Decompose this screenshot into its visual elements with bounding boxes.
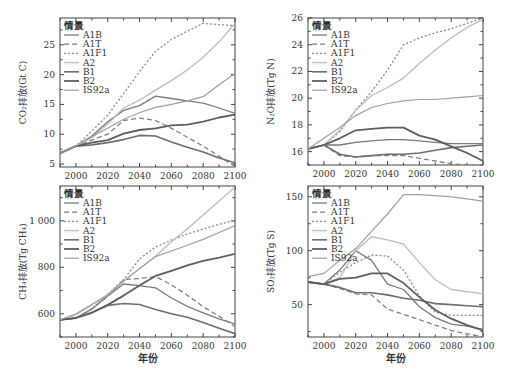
x-tick-label: 2080 bbox=[440, 169, 463, 179]
y-tick-label: 1 000 bbox=[29, 216, 55, 226]
x-tick-label: 2060 bbox=[160, 341, 183, 351]
y-tick-label: 16 bbox=[292, 147, 304, 157]
x-tick-label: 2020 bbox=[344, 341, 367, 351]
series-line-a1t bbox=[60, 118, 235, 166]
series-line-a1t bbox=[60, 277, 235, 327]
y-axis-label: CO₂排放(Gt C) bbox=[17, 61, 28, 124]
legend-label-is92a: IS92a bbox=[83, 253, 110, 263]
figure-canvas: 200020202040206020802100510152025CO₂排放(G… bbox=[0, 0, 507, 379]
y-tick-label: 26 bbox=[292, 13, 304, 23]
y-tick-label: 24 bbox=[292, 40, 304, 50]
x-tick-label: 2080 bbox=[440, 341, 463, 351]
legend: 情景A1BA1TA1F1A2B1B2IS92a bbox=[311, 20, 358, 95]
x-tick-label: 2100 bbox=[224, 171, 247, 181]
y-axis-label: CH₄排放(Tg CH₄) bbox=[17, 223, 28, 299]
x-axis-label: 年份 bbox=[386, 352, 407, 364]
x-tick-label: 2100 bbox=[224, 341, 247, 351]
x-tick-label: 2060 bbox=[408, 169, 431, 179]
x-tick-label: 2020 bbox=[96, 171, 119, 181]
legend-title: 情景 bbox=[63, 188, 84, 199]
legend-title: 情景 bbox=[63, 20, 84, 31]
x-axis-label: 年份 bbox=[138, 352, 159, 364]
x-tick-label: 2080 bbox=[192, 341, 215, 351]
y-tick-label: 5 bbox=[49, 159, 55, 169]
x-tick-label: 2020 bbox=[96, 341, 119, 351]
series-line-b2 bbox=[308, 273, 483, 330]
y-tick-label: 600 bbox=[38, 309, 55, 319]
series-line-b2 bbox=[60, 115, 235, 154]
x-tick-label: 2040 bbox=[376, 169, 399, 179]
legend-label-is92a: IS92a bbox=[331, 253, 358, 263]
y-axis-label: SO₂排放(Tg S) bbox=[265, 230, 276, 293]
y-tick-label: 18 bbox=[292, 120, 304, 130]
legend: 情景A1BA1TA1F1A2B1B2IS92a bbox=[63, 20, 110, 95]
y-tick-label: 50 bbox=[292, 300, 304, 310]
x-tick-label: 2100 bbox=[472, 169, 495, 179]
x-tick-label: 2000 bbox=[312, 169, 335, 179]
chart-so2: 20002020204020602080210050100150SO₂排放(Tg… bbox=[265, 186, 495, 364]
y-tick-label: 20 bbox=[292, 93, 304, 103]
x-tick-label: 2000 bbox=[312, 341, 335, 351]
chart-co2: 200020202040206020802100510152025CO₂排放(G… bbox=[17, 18, 247, 181]
series-line-a1f1 bbox=[308, 255, 483, 315]
x-tick-label: 2060 bbox=[408, 341, 431, 351]
series-line-b1 bbox=[308, 282, 483, 307]
series-line-a1b bbox=[60, 284, 235, 324]
y-tick-label: 22 bbox=[292, 66, 303, 76]
x-tick-label: 2060 bbox=[160, 171, 183, 181]
y-tick-label: 800 bbox=[38, 262, 55, 272]
x-tick-label: 2100 bbox=[472, 341, 495, 351]
y-tick-label: 15 bbox=[44, 99, 56, 109]
y-axis-label: N₂O排放(Tg N) bbox=[265, 58, 276, 124]
x-tick-label: 2040 bbox=[128, 341, 151, 351]
y-tick-label: 25 bbox=[44, 40, 56, 50]
y-tick-label: 100 bbox=[286, 246, 303, 256]
x-tick-label: 2080 bbox=[192, 171, 215, 181]
x-tick-label: 2000 bbox=[64, 171, 87, 181]
x-tick-label: 2020 bbox=[344, 169, 367, 179]
x-tick-label: 2000 bbox=[64, 341, 87, 351]
x-tick-label: 2040 bbox=[128, 171, 151, 181]
x-tick-label: 2040 bbox=[376, 341, 399, 351]
emissions-figure: 200020202040206020802100510152025CO₂排放(G… bbox=[0, 0, 507, 379]
y-tick-label: 20 bbox=[44, 70, 56, 80]
chart-ch4: 2000202020402060208021006008001 000CH₄排放… bbox=[17, 186, 247, 364]
y-tick-label: 150 bbox=[286, 192, 303, 202]
legend: 情景A1BA1TA1F1A2B1B2IS92a bbox=[63, 188, 110, 263]
legend-title: 情景 bbox=[311, 188, 332, 199]
legend-label-is92a: IS92a bbox=[331, 85, 358, 95]
y-tick-label: 10 bbox=[44, 129, 56, 139]
chart-n2o: 200020202040206020802100161820222426N₂O排… bbox=[265, 13, 495, 179]
legend-title: 情景 bbox=[311, 20, 332, 31]
legend-label-is92a: IS92a bbox=[83, 85, 110, 95]
